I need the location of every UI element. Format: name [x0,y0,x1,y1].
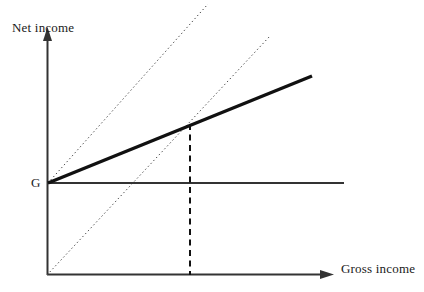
x-axis-label: Gross income [341,261,415,277]
chart-canvas [0,0,424,292]
series-net-income-schedule [48,76,312,183]
net-income-gross-income-diagram: Net income Gross income G [0,0,424,292]
y-axis [43,27,52,275]
series-forty-five-degree-from-origin [47,36,270,275]
intercept-label-g: G [31,175,41,191]
y-axis-label: Net income [12,20,74,36]
